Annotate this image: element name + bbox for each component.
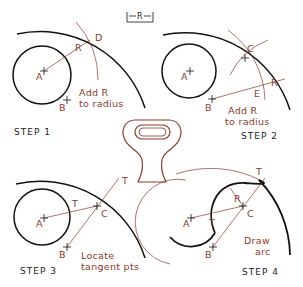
tangent-arc-diagram: R A B D R Add R to radius STEP 1 A B C E… — [0, 0, 303, 287]
svg-text:Locate: Locate — [81, 250, 114, 261]
svg-text:STEP 1: STEP 1 — [14, 127, 51, 137]
svg-text:R: R — [234, 193, 241, 204]
svg-text:B: B — [205, 102, 212, 113]
svg-text:R: R — [137, 12, 144, 21]
svg-text:to radius: to radius — [79, 98, 124, 109]
svg-text:A: A — [181, 71, 188, 82]
step-4: A B C T T R Draw arc STEP 4 — [135, 166, 290, 277]
svg-text:STEP 3: STEP 3 — [20, 266, 57, 276]
svg-text:STEP 4: STEP 4 — [242, 267, 279, 277]
svg-text:STEP 2: STEP 2 — [241, 131, 278, 141]
svg-text:C: C — [247, 43, 254, 54]
svg-text:Add R: Add R — [228, 105, 258, 116]
svg-text:E: E — [254, 88, 260, 99]
svg-text:arc: arc — [255, 246, 271, 257]
svg-text:Draw: Draw — [244, 235, 270, 246]
step-1: A B D R Add R to radius STEP 1 — [13, 22, 145, 137]
svg-text:A: A — [36, 71, 43, 82]
svg-text:C: C — [247, 208, 254, 219]
svg-text:R: R — [75, 42, 82, 53]
svg-text:T: T — [208, 217, 215, 228]
svg-text:B: B — [59, 249, 66, 260]
r-dimension-key: R — [127, 12, 153, 22]
svg-text:A: A — [36, 218, 43, 229]
svg-text:T: T — [71, 198, 78, 209]
svg-text:tangent pts: tangent pts — [81, 261, 139, 272]
svg-text:B: B — [59, 102, 66, 113]
svg-text:C: C — [101, 208, 108, 219]
svg-text:T: T — [255, 166, 262, 177]
center-part — [123, 120, 181, 182]
step-3: A B C T T Locate tangent pts STEP 3 — [14, 175, 145, 276]
svg-text:A: A — [183, 218, 190, 229]
svg-text:R: R — [271, 77, 278, 88]
svg-text:B: B — [205, 249, 212, 260]
svg-text:D: D — [95, 32, 103, 43]
svg-text:to radius: to radius — [225, 116, 270, 127]
step-2: A B C E R Add R to radius STEP 2 — [162, 30, 290, 141]
svg-text:T: T — [121, 175, 128, 186]
svg-text:Add R: Add R — [79, 87, 109, 98]
